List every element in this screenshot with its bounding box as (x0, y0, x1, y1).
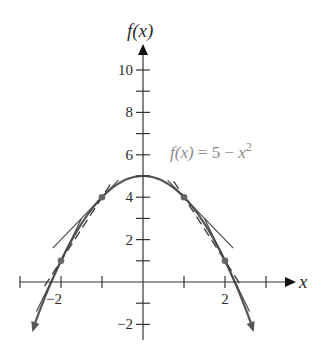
labels-layer: f(x) x f(x) = 5 − x2 −22108642−2 (46, 20, 308, 332)
y-tick-label: 4 (126, 189, 134, 205)
x-tick-label: 2 (221, 291, 229, 307)
curve-arrow-right-icon (247, 321, 255, 332)
y-tick-label: 2 (126, 232, 134, 248)
data-point (222, 258, 229, 265)
tangent-line (53, 180, 119, 248)
y-tick-label: 10 (118, 62, 133, 78)
y-axis-label: f(x) (127, 20, 153, 42)
function-label: f(x) = 5 − x2 (170, 140, 252, 162)
y-tick-label: −2 (117, 316, 133, 332)
y-tick-label: 8 (126, 104, 134, 120)
function-label-exponent: 2 (246, 140, 252, 154)
chart-figure: f(x) x f(x) = 5 − x2 −22108642−2 (0, 0, 321, 357)
curve-arrow-left-icon (31, 321, 39, 332)
x-axis-label: x (298, 271, 308, 292)
tangent-line (168, 180, 234, 248)
function-label-lhs: f(x) (170, 143, 194, 162)
y-tick-label: 6 (126, 147, 134, 163)
function-label-eq: = 5 − (194, 143, 239, 162)
data-point (99, 194, 106, 201)
data-point (181, 194, 188, 201)
plot-area: f(x) x f(x) = 5 − x2 −22108642−2 (0, 0, 321, 357)
x-tick-label: −2 (46, 291, 62, 307)
y-axis-arrow-icon (138, 44, 148, 55)
data-point (58, 258, 65, 265)
x-axis-arrow-icon (285, 277, 296, 287)
